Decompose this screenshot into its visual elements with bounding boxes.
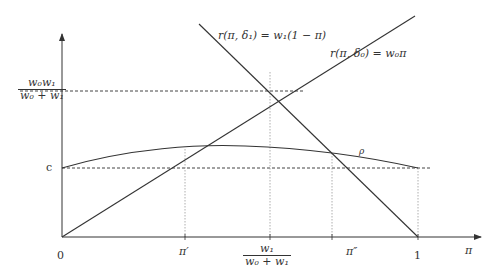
x-tick-label-pi-double-prime: π″ — [346, 246, 357, 257]
x-tick-label-pi-prime: π′ — [179, 246, 189, 257]
y-tick-label-c: c — [46, 162, 52, 173]
fraction-denominator: w₀ + w₁ — [243, 255, 291, 268]
fraction-numerator: w₀w₁ — [26, 77, 58, 89]
x-tick-label-midpoint: w₁ w₀ + w₁ — [243, 243, 291, 268]
risk-diagram: w₀w₁ w₀ + w₁ c 0 π′ w₁ w₀ + w₁ π″ 1 π r(… — [0, 0, 496, 275]
line-delta0-label: r(π, δ₀) = w₀π — [330, 48, 406, 59]
fraction-numerator: w₁ — [258, 243, 276, 255]
y-tick-label-intersection: w₀w₁ w₀ + w₁ — [18, 77, 66, 102]
x-tick-label-one: 1 — [414, 250, 421, 261]
line-delta1-label: r(π, δ₁) = w₁(1 − π) — [218, 30, 326, 41]
rho-curve — [62, 146, 418, 168]
fraction-denominator: w₀ + w₁ — [18, 89, 66, 102]
x-axis-label: π — [465, 245, 472, 256]
rho-curve-label: ρ — [359, 147, 364, 156]
x-tick-label-zero: 0 — [57, 250, 64, 261]
